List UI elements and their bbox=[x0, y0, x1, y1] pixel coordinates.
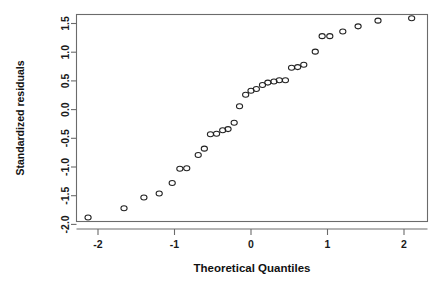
data-point bbox=[169, 181, 175, 186]
y-axis-ticks bbox=[71, 24, 77, 225]
data-point bbox=[213, 131, 219, 136]
data-point bbox=[177, 166, 183, 171]
data-point bbox=[355, 24, 361, 29]
plot-frame bbox=[77, 15, 428, 222]
data-point bbox=[301, 62, 307, 67]
x-tick-label: 0 bbox=[248, 238, 254, 250]
data-point bbox=[141, 195, 147, 200]
x-axis-tick-labels: -2 -1 0 1 2 bbox=[93, 238, 407, 250]
y-tick-label: 1.0 bbox=[59, 45, 71, 60]
y-tick-label: -1.5 bbox=[59, 186, 71, 204]
data-point bbox=[319, 34, 325, 39]
data-point bbox=[236, 104, 242, 109]
data-point bbox=[121, 206, 127, 211]
y-tick-label: -2.0 bbox=[59, 215, 71, 233]
data-point bbox=[201, 146, 207, 151]
x-tick-label: -1 bbox=[170, 238, 179, 250]
y-axis-tick-labels: 1.5 1.0 0.5 0.0 -0.5 -1.0 -1.5 -2.0 bbox=[59, 16, 71, 233]
x-axis-ticks bbox=[98, 229, 404, 235]
data-point bbox=[156, 191, 162, 196]
y-tick-label: 1.5 bbox=[59, 16, 71, 31]
data-point bbox=[312, 49, 318, 54]
data-point bbox=[265, 80, 271, 85]
y-tick-label: 0.0 bbox=[59, 102, 71, 117]
data-point bbox=[231, 120, 237, 125]
data-point bbox=[327, 34, 333, 39]
qq-plot-figure: 1.5 1.0 0.5 0.0 -0.5 -1.0 -1.5 -2.0 -2 -… bbox=[0, 0, 443, 288]
y-axis-title: Standardized residuals bbox=[14, 60, 26, 175]
data-point bbox=[340, 29, 346, 34]
data-point bbox=[207, 132, 213, 137]
x-tick-label: 2 bbox=[401, 238, 407, 250]
data-point bbox=[295, 65, 301, 70]
data-point bbox=[288, 65, 294, 70]
x-tick-label: 1 bbox=[325, 238, 331, 250]
data-point bbox=[282, 78, 288, 83]
data-point bbox=[85, 215, 91, 220]
data-point bbox=[375, 18, 381, 23]
y-tick-label: -0.5 bbox=[59, 129, 71, 147]
y-tick-label: 0.5 bbox=[59, 73, 71, 88]
x-axis-title: Theoretical Quantiles bbox=[194, 262, 311, 274]
y-tick-label: -1.0 bbox=[59, 158, 71, 176]
data-point bbox=[195, 152, 201, 157]
qq-plot-canvas: 1.5 1.0 0.5 0.0 -0.5 -1.0 -1.5 -2.0 -2 -… bbox=[0, 0, 443, 288]
data-points-layer bbox=[85, 16, 415, 220]
data-point bbox=[184, 166, 190, 171]
data-point bbox=[409, 16, 415, 21]
x-tick-label: -2 bbox=[93, 238, 102, 250]
data-point bbox=[243, 92, 249, 97]
